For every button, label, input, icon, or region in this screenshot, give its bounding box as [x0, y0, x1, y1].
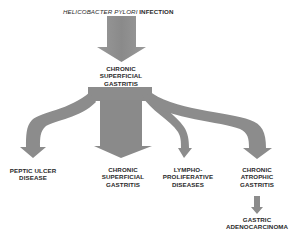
arrow-root-to-peptic-ulcer [20, 92, 96, 158]
organism-name: HELICOBACTER PYLORI [63, 8, 137, 15]
node-line: CHRONIC [229, 166, 285, 173]
infection-title: HELICOBACTER PYLORI INFECTION [63, 8, 174, 15]
node-lymphoproliferative-diseases: LYMPHO- PROLIFERATIVE DISEASES [158, 166, 218, 188]
node-line: ATROPHIC [229, 173, 285, 180]
arrow-root-to-chronic-atrophic [148, 90, 272, 159]
node-line: PEPTIC ULCER [2, 167, 64, 174]
node-line: GASTRITIS [229, 181, 285, 188]
node-gastric-adenocarcinoma: GASTRIC ADENOCARCINOMA [222, 216, 292, 231]
hpylori-flow-diagram: HELICOBACTER PYLORI INFECTION CHRONIC SU… [0, 0, 296, 238]
infection-label: INFECTION [139, 8, 173, 15]
arrow-atrophic-to-adenocarcinoma [251, 196, 263, 214]
node-line: CHRONIC [93, 166, 153, 173]
node-line: ADENOCARCINOMA [222, 223, 292, 230]
node-line: SUPERFICIAL [92, 72, 150, 79]
node-line: CHRONIC [92, 65, 150, 72]
node-line: SUPERFICIAL [93, 173, 153, 180]
node-root-chronic-superficial-gastritis: CHRONIC SUPERFICIAL GASTRITIS [92, 65, 150, 87]
node-line: DISEASE [2, 174, 64, 181]
node-line: GASTRITIS [93, 181, 153, 188]
node-line: LYMPHO- [158, 166, 218, 173]
arrow-root-stem [88, 87, 152, 101]
node-line: GASTRIC [222, 216, 292, 223]
node-peptic-ulcer-disease: PEPTIC ULCER DISEASE [2, 167, 64, 182]
node-line: PROLIFERATIVE [158, 173, 218, 180]
arrows-layer [0, 0, 296, 238]
arrow-root-to-chronic-superficial [94, 100, 152, 158]
node-line: DISEASES [158, 181, 218, 188]
node-chronic-superficial-gastritis: CHRONIC SUPERFICIAL GASTRITIS [93, 166, 153, 188]
node-line: GASTRITIS [92, 80, 150, 87]
node-chronic-atrophic-gastritis: CHRONIC ATROPHIC GASTRITIS [229, 166, 285, 188]
arrow-infection-to-root [97, 16, 146, 62]
